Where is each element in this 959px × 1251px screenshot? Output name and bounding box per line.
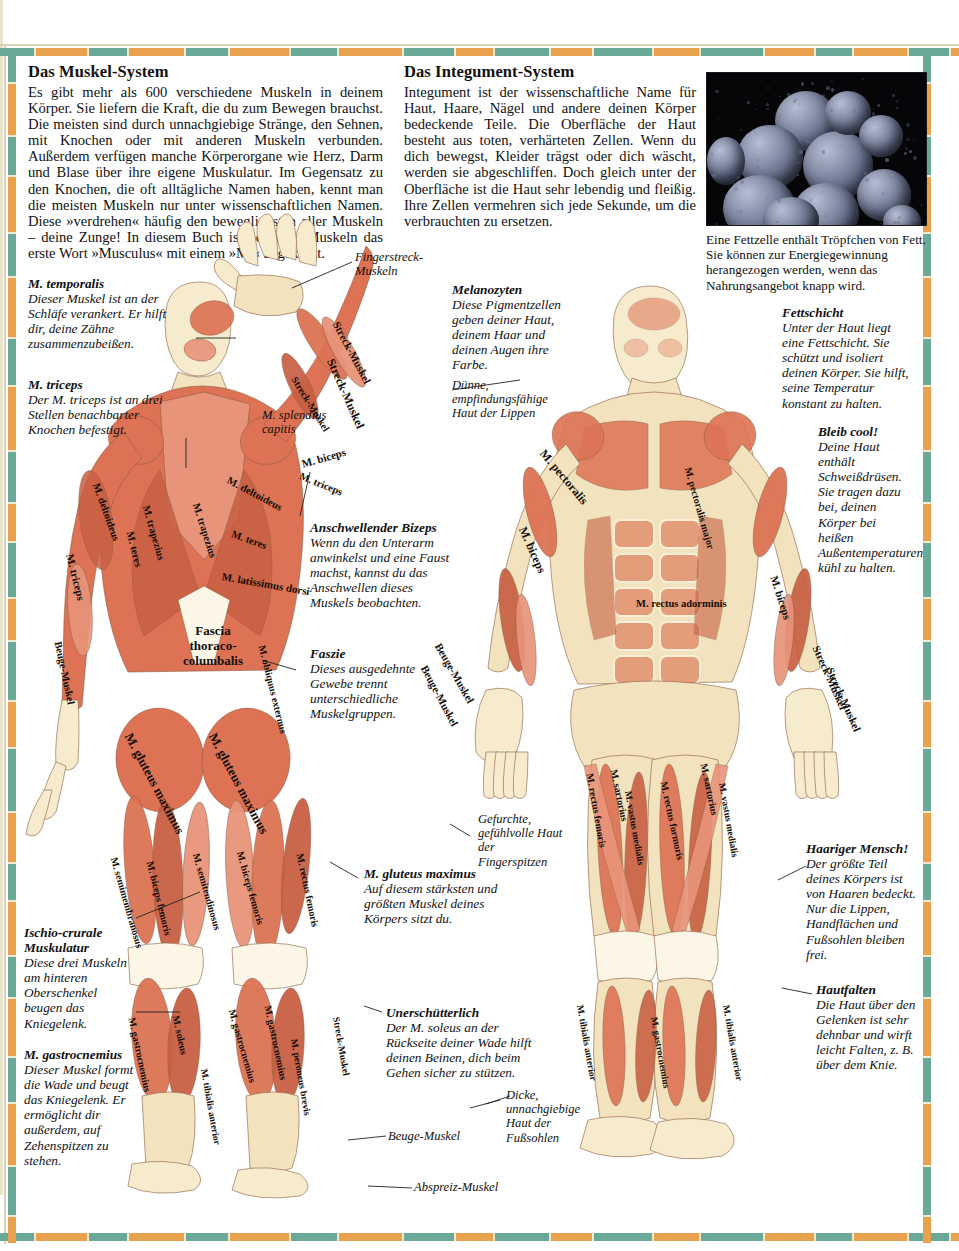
callout-melanozyten: Melanozyten Diese Pigmentzellen geben de… [452,282,566,373]
callout-heading: Unerschütterlich [386,1005,538,1020]
body-contour [232,1168,308,1198]
m-rectus-abdominis-segment [614,622,654,650]
leader-line [348,1136,386,1140]
callout-body: Diese drei Muskeln am hinteren Oberschen… [24,955,127,1030]
callout-m-triceps: M. triceps Der M. triceps ist an drei St… [28,377,168,437]
body-contour [654,931,718,985]
callout-body: Deine Haut enthält Schweißdrüsen. Sie tr… [818,439,923,575]
callout-heading: M. triceps [28,377,168,392]
body-contour [276,214,296,260]
callout-heading: M. gastrocnemius [24,1047,142,1062]
callout-heading: Anschwellender Bizeps [310,520,450,535]
body-contour [296,219,317,266]
leader-line [450,824,470,836]
muscle-belly [628,298,680,330]
callout-fettschicht: Fettschicht Unter der Haut liegt eine Fe… [782,305,914,411]
label-fingerspitzen-haut: Gefurchte, gefühlvolle Haut der Fingersp… [478,812,564,869]
body-contour [257,214,278,260]
leader-line [778,866,806,880]
body-contour [142,1092,195,1172]
m-rectus-abdominis-segment [614,520,654,548]
label-abspreiz-muskel: Abspreiz-Muskel [414,1180,524,1194]
body-contour [580,1116,663,1156]
callout-hautfalten: Hautfalten Die Haut über den Gelenken is… [816,982,918,1073]
label-lippen-haut: Dünne, empfindungsfähige Haut der Lippen [452,378,538,421]
body-contour [513,752,528,799]
m-rectus-abdominis-segment [614,554,654,582]
label-fusssohlen-haut: Dicke, unnachgiebige Haut der Fußsohlen [506,1088,586,1145]
callout-body: Die Haut über den Gelenken ist sehr dehn… [816,997,915,1072]
callout-anschwellender-bizeps: Anschwellender Bizeps Wenn du den Untera… [310,520,450,611]
callout-m-temporalis: M. temporalis Dieser Muskel ist an der S… [28,276,178,351]
callout-body: Dieses ausgedehnte Gewebe trennt untersc… [310,661,415,721]
m-rectus-abdominis-segment [660,622,700,650]
callout-heading: Fettschicht [782,305,914,320]
callout-body: Wenn du den Unterarm anwinkelst und eine… [310,535,449,610]
leader-line [368,1186,412,1188]
callout-body: Dieser Muskel formt die Wade und beugt d… [24,1062,133,1168]
callout-unerschuetterlich: Unerschütterlich Der M. soleus an der Rü… [386,1005,538,1080]
callout-heading: Melanozyten [452,282,566,297]
muscle-belly [658,339,682,357]
body-contour [785,688,833,763]
callout-body: Unter der Haut liegt eine Fettschicht. S… [782,320,909,410]
label-fingerstreck-muskeln: Fingerstreck-Muskeln [355,250,451,278]
callout-body: Der M. triceps ist an drei Stellen benac… [28,392,163,437]
callout-body: Dieser Muskel ist an der Schläfe veranke… [28,291,166,351]
callout-ischio-crurale: Ischio-crurale Muskulatur Diese drei Mus… [24,925,134,1031]
label-beuge-muskel: Beuge-Muskel [388,1129,498,1143]
callout-heading: Faszie [310,646,420,661]
body-contour [246,1092,299,1172]
leader-line [364,1006,382,1012]
m-rectus-abdominis-segment [614,656,654,684]
label-fascia-thoracolumbalis: Fascia thoraco-columbalis [172,623,254,668]
muscle-belly [624,339,648,357]
m-rectus-abdominis-segment [660,520,700,548]
hand-back [234,275,303,316]
callout-m-gastrocnemius: M. gastrocnemius Dieser Muskel formt die… [24,1047,142,1168]
callout-heading: Haariger Mensch! [806,841,918,856]
body-contour [594,931,658,985]
callout-faszie: Faszie Dieses ausgedehnte Gewebe trennt … [310,646,420,721]
callout-heading: Ischio-crurale Muskulatur [24,925,134,955]
callout-m-gluteus-maximus: M. gluteus maximus Auf diesem stärksten … [364,866,504,926]
callout-body: Auf diesem stärksten und größten Muskel … [364,881,497,926]
body-contour [824,752,839,799]
callout-body: Diese Pigmentzellen geben deiner Haut, d… [452,297,561,372]
callout-heading: Bleib cool! [818,424,914,439]
body-contour [650,1118,734,1158]
muscle-label: M. rectus adorminis [636,598,727,609]
callout-bleib-cool: Bleib cool! Deine Haut enthält Schweißdr… [818,424,914,575]
body-contour [56,700,79,770]
body-contour [237,222,258,266]
callout-body: Der größte Teil deines Körpers ist von H… [806,856,916,962]
body-contour [232,943,307,989]
m-rectus-abdominis-segment [660,554,700,582]
leader-line [782,988,812,994]
m-rectus-abdominis-segment [660,656,700,684]
callout-body: Der M. soleus an der Rückseite deiner Wa… [386,1020,531,1080]
callout-heading: M. temporalis [28,276,178,291]
label-m-splendius-capitis: M. splendius capitis [262,408,346,436]
leader-line [330,862,358,878]
callout-haariger-mensch: Haariger Mensch! Der größte Teil deines … [806,841,918,962]
leader-line [292,262,352,288]
body-contour [475,688,523,763]
body-contour [128,943,203,989]
callout-heading: Hautfalten [816,982,918,997]
